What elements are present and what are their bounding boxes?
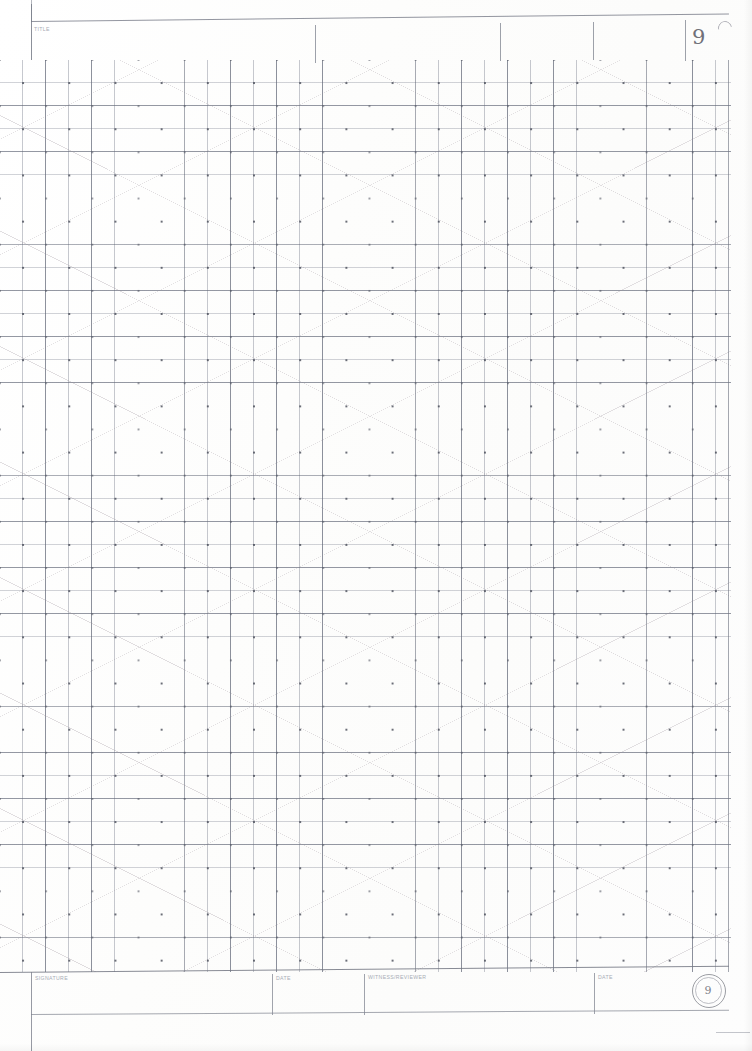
footer-left-rule xyxy=(31,972,32,1051)
footer-divider-1 xyxy=(272,974,273,1015)
signature-field-label: SIGNATURE xyxy=(35,975,68,981)
footer-divider-2 xyxy=(364,974,365,1015)
page-number-stamp: 9 xyxy=(692,974,726,1008)
scan-edge-shadow-bottom xyxy=(0,1043,752,1051)
grid-writing-area[interactable] xyxy=(0,60,731,972)
witness-reviewer-field-label: WITNESS/REVIEWER xyxy=(368,974,426,980)
grid-dot-markers xyxy=(0,60,731,972)
title-field-label: TITLE xyxy=(34,26,50,32)
scan-edge-shadow-right xyxy=(744,0,752,1051)
footer-bottom-rule xyxy=(31,1010,729,1015)
header-left-rule xyxy=(31,4,32,60)
header-divider-2 xyxy=(500,23,501,61)
header-field-block: TITLE 9 xyxy=(31,21,729,60)
grid-right-rule xyxy=(728,60,729,972)
pencil-mark-icon xyxy=(715,18,734,37)
notebook-page: TITLE 9 SIGNATURE DATE WITNESS/REVIEWER … xyxy=(0,0,752,1051)
date-field-label-1: DATE xyxy=(276,975,291,981)
date-field-label-2: DATE xyxy=(598,974,613,980)
footer-divider-3 xyxy=(594,973,595,1014)
header-divider-3 xyxy=(593,22,594,60)
header-divider-4 xyxy=(685,20,686,61)
header-divider-1 xyxy=(315,25,316,63)
footer-field-block: SIGNATURE DATE WITNESS/REVIEWER DATE xyxy=(31,972,729,1015)
stamp-page-number: 9 xyxy=(692,974,724,1006)
header-top-rule xyxy=(31,13,729,22)
handwritten-page-number: 9 xyxy=(692,27,705,48)
